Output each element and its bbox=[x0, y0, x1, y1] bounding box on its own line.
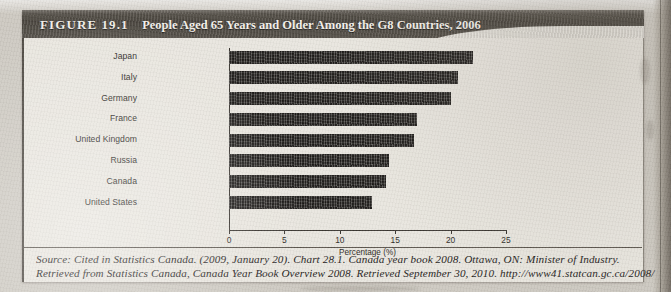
bar-track bbox=[229, 90, 515, 110]
bar-germany bbox=[229, 92, 451, 105]
bar-row: France bbox=[139, 110, 539, 130]
bar-row: Russia bbox=[139, 152, 539, 172]
x-axis-tick-label: 25 bbox=[501, 235, 510, 245]
bar-row: United Kingdom bbox=[139, 131, 539, 151]
bar-france bbox=[229, 113, 417, 126]
x-axis-tick bbox=[506, 230, 507, 234]
bar-track bbox=[229, 194, 515, 214]
bar-track bbox=[229, 48, 515, 68]
category-label: Italy bbox=[121, 72, 137, 82]
figure-number: FIGURE 19.1 bbox=[40, 17, 129, 32]
category-label: France bbox=[110, 113, 137, 123]
category-label: Japan bbox=[113, 51, 137, 61]
page-gutter-shadow bbox=[653, 0, 671, 292]
bar-track bbox=[229, 173, 515, 193]
x-axis-tick-label: 15 bbox=[391, 235, 400, 245]
x-axis-tick bbox=[284, 230, 285, 234]
bar-united-states bbox=[229, 196, 372, 209]
scan-smudge bbox=[300, 286, 420, 291]
bar-row: United States bbox=[139, 194, 539, 214]
bar-row: Canada bbox=[139, 173, 539, 193]
bar-canada bbox=[229, 175, 386, 188]
x-axis-tick bbox=[340, 230, 341, 234]
bar-row: Germany bbox=[139, 90, 539, 110]
category-label: Germany bbox=[101, 93, 137, 103]
plot-area: Japan Italy Germany bbox=[139, 48, 539, 230]
caption-divider bbox=[24, 247, 642, 248]
scan-top-highlight bbox=[0, 0, 671, 14]
figure-header-band: FIGURE 19.1 People Aged 65 Years and Old… bbox=[22, 10, 644, 38]
category-label: United States bbox=[85, 197, 137, 207]
page-gutter-edge bbox=[660, 0, 661, 292]
bar-italy bbox=[229, 71, 458, 84]
bar-russia bbox=[229, 154, 389, 167]
bar-track bbox=[229, 110, 515, 130]
x-axis-line bbox=[229, 230, 506, 231]
category-label: United Kingdom bbox=[75, 134, 137, 144]
x-axis-tick-label: 10 bbox=[335, 235, 344, 245]
bar-row: Japan bbox=[139, 48, 539, 68]
category-label: Canada bbox=[107, 176, 137, 186]
bar-united-kingdom bbox=[229, 134, 414, 147]
source-caption: Source: Cited in Statistics Canada. (200… bbox=[36, 253, 636, 280]
scanned-page: FIGURE 19.1 People Aged 65 Years and Old… bbox=[0, 0, 671, 292]
figure-container: FIGURE 19.1 People Aged 65 Years and Old… bbox=[22, 10, 644, 282]
bar-row: Italy bbox=[139, 69, 539, 89]
x-axis-tick-label: 0 bbox=[227, 235, 232, 245]
x-axis-tick bbox=[395, 230, 396, 234]
x-axis-tick-label: 5 bbox=[282, 235, 287, 245]
bar-chart: Japan Italy Germany bbox=[22, 40, 644, 236]
caption-line-2: Retrieved from Statistics Canada, Canada… bbox=[36, 267, 636, 281]
bar-track bbox=[229, 69, 515, 89]
bar-track bbox=[229, 131, 515, 151]
bar-track bbox=[229, 152, 515, 172]
caption-line-1: Source: Cited in Statistics Canada. (200… bbox=[36, 253, 636, 267]
x-axis-tick-label: 20 bbox=[446, 235, 455, 245]
figure-title: People Aged 65 Years and Older Among the… bbox=[142, 18, 481, 32]
figure-header-text: FIGURE 19.1 People Aged 65 Years and Old… bbox=[40, 15, 481, 33]
category-label: Russia bbox=[110, 155, 137, 165]
bar-japan bbox=[229, 51, 473, 64]
x-axis-tick bbox=[229, 230, 230, 234]
x-axis-tick bbox=[451, 230, 452, 234]
